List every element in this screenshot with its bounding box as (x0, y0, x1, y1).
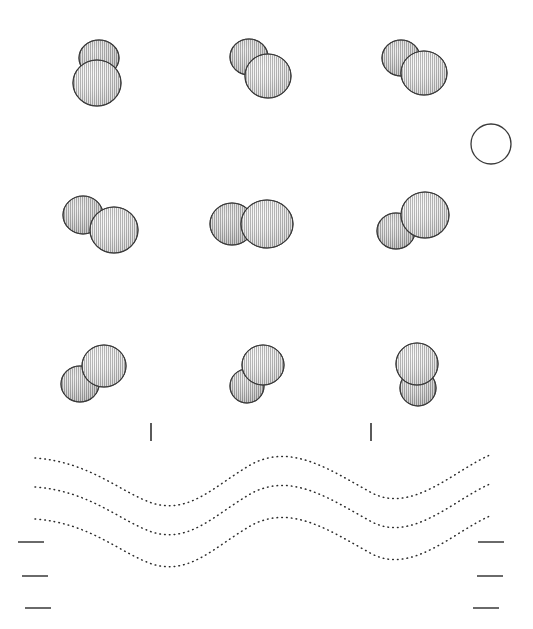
scale-dash-left-3 (25, 607, 51, 609)
wave-contours-group (35, 455, 490, 567)
sphere-mesh-overlay (402, 193, 449, 238)
sphere-mesh-overlay (242, 201, 293, 248)
scale-dash-right-2 (477, 575, 503, 577)
reference-circle (471, 124, 511, 164)
row-2 (63, 192, 449, 253)
wave-2 (35, 484, 490, 535)
scale-dash-left-2 (22, 575, 48, 577)
sphere-mesh-overlay (91, 208, 138, 253)
sphere-mesh-overlay (402, 52, 447, 95)
sphere-mesh-overlay (243, 346, 284, 385)
sphere-pairs-group (61, 39, 449, 406)
reference-circle-group (471, 124, 511, 164)
row-1 (73, 39, 447, 106)
panel-3-1 (61, 345, 126, 402)
figure-canvas: Binary sphere interaction sequence (0, 0, 533, 629)
panel-3-2 (230, 345, 284, 403)
figure-svg-layer (0, 0, 533, 629)
panel-1-3 (382, 40, 447, 95)
wave-1 (35, 455, 490, 506)
panel-2-2 (210, 200, 293, 248)
sphere-mesh-overlay (74, 61, 121, 106)
tick-left (150, 423, 152, 441)
panel-3-3 (396, 343, 438, 406)
scale-dash-left-1 (18, 541, 44, 543)
sphere-mesh-overlay (397, 344, 438, 385)
scale-dash-right-3 (473, 607, 499, 609)
scale-dash-right-1 (478, 541, 504, 543)
wave-3 (35, 516, 490, 567)
panel-1-1 (73, 40, 121, 106)
panel-1-2 (230, 39, 291, 98)
sphere-mesh-overlay (83, 346, 126, 387)
sphere-mesh-overlay (246, 55, 291, 98)
row-3 (61, 343, 438, 406)
tick-right (370, 423, 372, 441)
panel-2-1 (63, 196, 138, 253)
panel-2-3 (377, 192, 449, 249)
